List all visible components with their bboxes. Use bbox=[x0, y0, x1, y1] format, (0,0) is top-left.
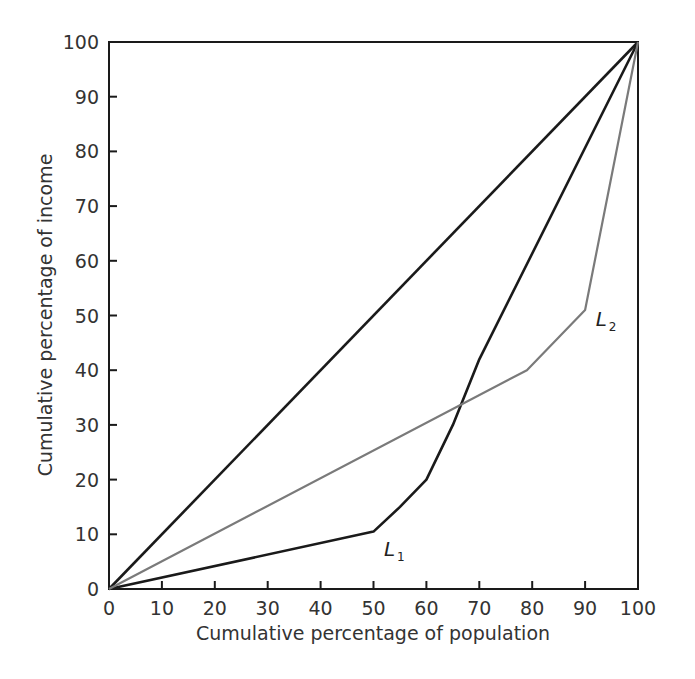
x-tick-label: 50 bbox=[361, 597, 385, 619]
y-tick-label: 70 bbox=[75, 195, 99, 217]
lorenz-curve-chart: 0102030405060708090100010203040506070809… bbox=[0, 0, 695, 679]
y-tick-label: 80 bbox=[75, 140, 99, 162]
y-tick-label: 100 bbox=[63, 31, 99, 53]
curve-label-subscript: 1 bbox=[397, 550, 405, 564]
x-tick-label: 60 bbox=[414, 597, 438, 619]
y-tick-label: 60 bbox=[75, 250, 99, 272]
x-tick-label: 20 bbox=[203, 597, 227, 619]
x-tick-label: 40 bbox=[309, 597, 333, 619]
curve-label-l2: L bbox=[596, 307, 607, 331]
labels-group: L1L2 bbox=[384, 307, 616, 564]
y-axis-title: Cumulative percentage of income bbox=[34, 154, 56, 477]
x-axis-title: Cumulative percentage of population bbox=[196, 622, 550, 644]
x-tick-label: 70 bbox=[467, 597, 491, 619]
series-group bbox=[109, 42, 638, 589]
y-tick-label: 30 bbox=[75, 414, 99, 436]
y-tick-label: 90 bbox=[75, 86, 99, 108]
x-tick-label: 30 bbox=[256, 597, 280, 619]
axes: 0102030405060708090100010203040506070809… bbox=[63, 31, 656, 619]
x-tick-label: 10 bbox=[150, 597, 174, 619]
x-tick-label: 100 bbox=[620, 597, 656, 619]
x-tick-label: 0 bbox=[103, 597, 115, 619]
curve-label-l1: L bbox=[384, 537, 395, 561]
y-tick-label: 0 bbox=[87, 578, 99, 600]
y-tick-label: 40 bbox=[75, 359, 99, 381]
x-tick-label: 90 bbox=[573, 597, 597, 619]
x-tick-label: 80 bbox=[520, 597, 544, 619]
y-tick-label: 20 bbox=[75, 469, 99, 491]
equality-line bbox=[109, 42, 638, 589]
y-tick-label: 50 bbox=[75, 305, 99, 327]
curve-label-subscript: 2 bbox=[609, 320, 617, 334]
y-tick-label: 10 bbox=[75, 523, 99, 545]
